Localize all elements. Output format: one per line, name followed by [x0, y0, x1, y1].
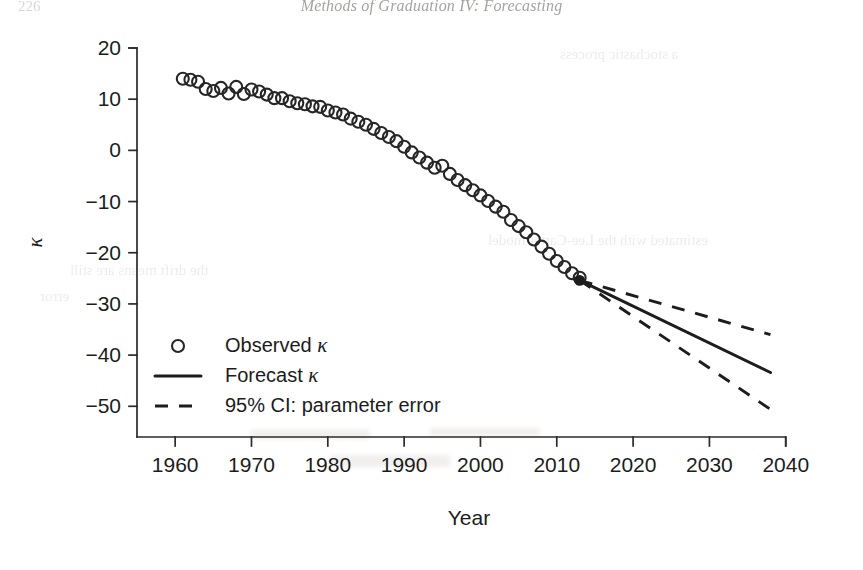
x-axis-title: Year	[448, 506, 490, 529]
x-tick-label: 1980	[304, 453, 351, 476]
y-tick-label: 0	[109, 138, 121, 161]
x-tick-label: 2030	[686, 453, 733, 476]
legend-item: 95% CI: parameter error	[155, 394, 441, 416]
observed-point	[528, 233, 540, 245]
kappa-forecast-chart: 20100−10−20−30−40−5019601970198019902000…	[0, 0, 863, 570]
legend-item: Forecast κ	[155, 363, 319, 387]
observed-point	[192, 76, 204, 88]
y-axis-spine	[129, 48, 137, 437]
observed-point	[276, 92, 288, 104]
axes: 20100−10−20−30−40−5019601970198019902000…	[85, 36, 809, 476]
y-tick-label: −10	[85, 190, 121, 213]
x-tick-label: 2000	[457, 453, 504, 476]
observed-point	[230, 81, 242, 93]
y-axis-title: κ	[23, 237, 47, 248]
y-tick-label: 10	[98, 87, 121, 110]
observed-point	[207, 85, 219, 97]
x-tick-label: 2040	[762, 453, 809, 476]
x-tick-label: 2010	[533, 453, 580, 476]
legend-open-circle-icon	[172, 340, 184, 352]
x-tick-label: 1990	[381, 453, 428, 476]
chart-legend: Observed κForecast κ95% CI: parameter er…	[155, 333, 441, 416]
observed-point	[299, 98, 311, 110]
observed-point	[543, 248, 555, 260]
plot-canvas: 20100−10−20−30−40−5019601970198019902000…	[0, 0, 863, 570]
x-tick-label: 2020	[610, 453, 657, 476]
observed-point	[184, 74, 196, 86]
legend-label: 95% CI: parameter error	[225, 394, 441, 416]
observed-point	[284, 95, 296, 107]
legend-item: Observed κ	[172, 333, 328, 357]
observed-point	[200, 83, 212, 95]
x-tick-label: 1960	[152, 453, 199, 476]
ci-band-line	[580, 280, 771, 409]
x-axis-spine	[137, 437, 786, 446]
y-tick-label: −30	[85, 292, 121, 315]
forecast-origin-dot	[574, 275, 585, 286]
y-tick-label: −20	[85, 241, 121, 264]
y-tick-label: −40	[85, 343, 121, 366]
legend-label: Forecast κ	[225, 363, 319, 387]
x-tick-label: 1970	[228, 453, 275, 476]
y-tick-label: −50	[85, 394, 121, 417]
legend-label: Observed κ	[225, 333, 328, 357]
observed-point	[536, 241, 548, 253]
book-page: 226 Methods of Graduation IV: Forecastin…	[0, 0, 863, 570]
observed-point	[253, 86, 265, 98]
y-tick-label: 20	[98, 36, 121, 59]
observed-point	[352, 116, 364, 128]
observed-point	[329, 106, 341, 118]
observed-series	[177, 73, 586, 284]
data-layer	[177, 73, 771, 410]
